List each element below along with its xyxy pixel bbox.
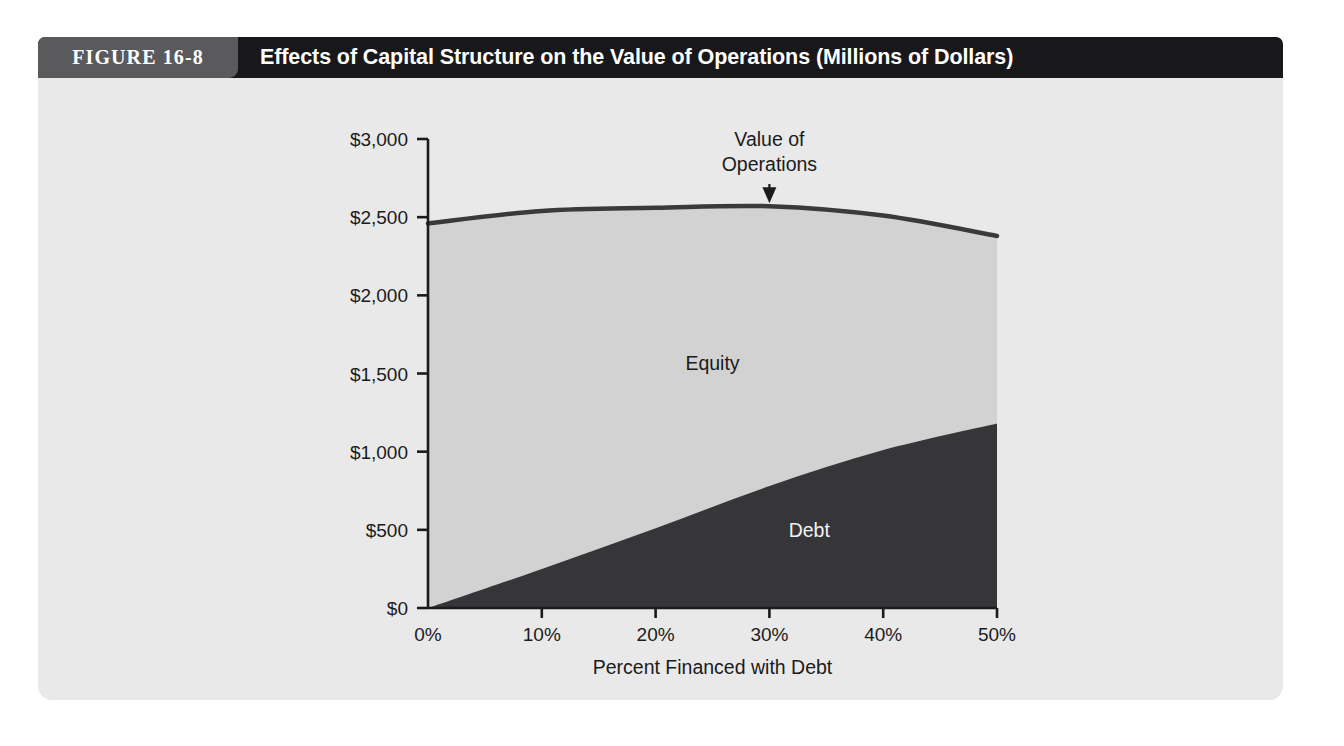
- x-axis-ticks: [542, 608, 997, 618]
- y-axis-tick-label: $2,500: [350, 207, 408, 228]
- x-axis-tick-label: 50%: [978, 624, 1016, 645]
- x-axis-tick-label: 20%: [637, 624, 675, 645]
- x-axis-tick-label: 0%: [414, 624, 442, 645]
- y-axis-tick-label: $2,000: [350, 285, 408, 306]
- figure-title: Effects of Capital Structure on the Valu…: [260, 37, 1013, 78]
- x-axis-tick-label: 10%: [523, 624, 561, 645]
- y-axis-tick-labels: $0$500$1,000$1,500$2,000$2,500$3,000: [350, 129, 408, 619]
- y-axis-tick-label: $0: [387, 598, 408, 619]
- x-axis-tick-labels: 0%10%20%30%40%50%: [414, 624, 1016, 645]
- y-axis-ticks: [417, 139, 428, 608]
- callout-text-line-1: Value of: [734, 128, 805, 150]
- debt-series-label: Debt: [789, 519, 831, 541]
- y-axis-tick-label: $1,000: [350, 442, 408, 463]
- chart-plot-area: $0$500$1,000$1,500$2,000$2,500$3,000 0%1…: [38, 78, 1283, 700]
- x-axis-tick-label: 30%: [750, 624, 788, 645]
- y-axis-tick-label: $3,000: [350, 129, 408, 150]
- y-axis-tick-label: $1,500: [350, 364, 408, 385]
- figure-number-label: FIGURE 16-8: [72, 46, 204, 69]
- callout-arrow-head: [762, 187, 776, 203]
- figure-number-badge: FIGURE 16-8: [38, 37, 238, 78]
- y-axis-tick-label: $500: [366, 520, 408, 541]
- capital-structure-area-chart: $0$500$1,000$1,500$2,000$2,500$3,000 0%1…: [38, 78, 1283, 700]
- x-axis-tick-label: 40%: [864, 624, 902, 645]
- equity-series-label: Equity: [685, 352, 739, 374]
- value-of-operations-callout: Value of Operations: [722, 128, 818, 203]
- figure-header-bar: FIGURE 16-8 Effects of Capital Structure…: [38, 37, 1283, 78]
- x-axis-title: Percent Financed with Debt: [593, 656, 833, 678]
- callout-text-line-2: Operations: [722, 153, 818, 175]
